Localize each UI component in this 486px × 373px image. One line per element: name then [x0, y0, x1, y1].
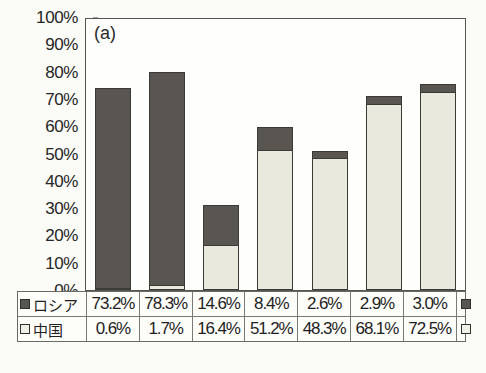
- bar-column: [248, 19, 302, 290]
- cutoff-legend-cell: [456, 292, 476, 316]
- bar-segment-russia[interactable]: [366, 96, 402, 104]
- plot-area: (a): [85, 18, 466, 291]
- stacked-bar[interactable]: [149, 72, 185, 290]
- bar-segment-russia[interactable]: [149, 72, 185, 286]
- bar-segment-russia[interactable]: [420, 84, 456, 92]
- bar-group: [86, 19, 465, 290]
- y-axis-tick-label: 50%: [45, 145, 78, 165]
- bar-column: [357, 19, 411, 290]
- table-value-cell: 2.9%: [350, 292, 403, 316]
- bar-segment-china[interactable]: [420, 92, 456, 290]
- stacked-bar[interactable]: [420, 84, 456, 290]
- table-value-cell: 72.5%: [403, 317, 456, 341]
- table-value-cell: 3.0%: [403, 292, 456, 316]
- bar-segment-russia[interactable]: [312, 151, 348, 158]
- figure-stacked-bar-chart: 100%90%80%70%60%50%40%30%20%10%0% (a) 19…: [0, 0, 486, 373]
- series-label-cell: ロシア: [18, 292, 86, 316]
- table-value-cell: 2.6%: [297, 292, 350, 316]
- bar-segment-russia[interactable]: [203, 205, 239, 245]
- bar-segment-china[interactable]: [149, 285, 185, 290]
- y-axis-tick-label: 30%: [45, 199, 78, 219]
- y-axis-tick-label: 70%: [45, 90, 78, 110]
- bar-segment-china[interactable]: [95, 288, 131, 290]
- bar-segment-china[interactable]: [312, 158, 348, 290]
- bar-column: [303, 19, 357, 290]
- bar-column: [140, 19, 194, 290]
- table-value-cell: 0.6%: [86, 317, 139, 341]
- table-row: 中国0.6%1.7%16.4%51.2%48.3%68.1%72.5%: [18, 317, 465, 341]
- y-axis-tick-label: 80%: [45, 63, 78, 83]
- stacked-bar[interactable]: [366, 96, 402, 290]
- table-value-cell: 14.6%: [192, 292, 245, 316]
- light-square-icon: [20, 324, 30, 334]
- y-axis-tick-label: 40%: [45, 172, 78, 192]
- table-value-cell: 68.1%: [350, 317, 403, 341]
- dark-square-icon: [20, 299, 30, 309]
- y-axis: 100%90%80%70%60%50%40%30%20%10%0%: [10, 18, 82, 291]
- bar-segment-china[interactable]: [366, 104, 402, 290]
- y-axis-tick-label: 10%: [45, 254, 78, 274]
- y-axis-tick-label: 60%: [45, 117, 78, 137]
- bar-segment-russia[interactable]: [95, 88, 131, 288]
- table-row: ロシア73.2%78.3%14.6%8.4%2.6%2.9%3.0%: [18, 292, 465, 317]
- y-axis-tick-label: 100%: [36, 8, 78, 28]
- table-value-cell: 8.4%: [244, 292, 297, 316]
- bar-column: [86, 19, 140, 290]
- series-label-cell: 中国: [18, 317, 86, 341]
- table-value-cell: 48.3%: [297, 317, 350, 341]
- stacked-bar[interactable]: [312, 151, 348, 290]
- table-value-cell: 73.2%: [86, 292, 139, 316]
- bar-column: [411, 19, 465, 290]
- stacked-bar[interactable]: [257, 127, 293, 290]
- cutoff-legend-cell: [456, 317, 476, 341]
- bar-segment-russia[interactable]: [257, 127, 293, 150]
- table-value-cell: 51.2%: [244, 317, 297, 341]
- series-label: 中国: [33, 319, 63, 340]
- bar-column: [194, 19, 248, 290]
- bar-segment-china[interactable]: [203, 245, 239, 290]
- y-axis-tick-label: 90%: [45, 35, 78, 55]
- light-square-icon: [461, 324, 471, 334]
- y-axis-tick-label: 20%: [45, 226, 78, 246]
- dark-square-icon: [461, 299, 471, 309]
- data-table: ロシア73.2%78.3%14.6%8.4%2.6%2.9%3.0%中国0.6%…: [17, 291, 466, 342]
- bar-segment-china[interactable]: [257, 150, 293, 290]
- table-value-cell: 78.3%: [139, 292, 192, 316]
- stacked-bar[interactable]: [203, 205, 239, 290]
- table-value-cell: 16.4%: [192, 317, 245, 341]
- series-label: ロシア: [33, 294, 78, 315]
- table-value-cell: 1.7%: [139, 317, 192, 341]
- stacked-bar[interactable]: [95, 88, 131, 290]
